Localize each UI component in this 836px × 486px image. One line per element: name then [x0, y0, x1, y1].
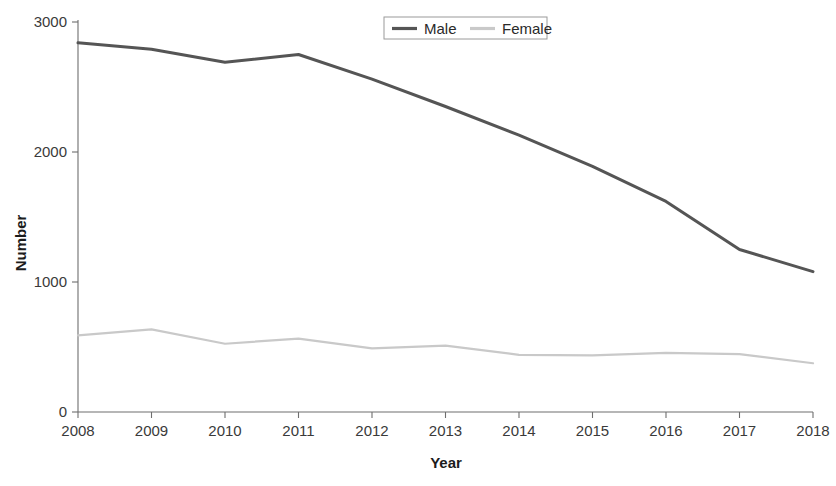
x-tick-label: 2012 [355, 422, 388, 439]
chart-legend: Male Female [384, 17, 552, 39]
x-tick-label: 2011 [282, 422, 314, 439]
x-tick-label: 2008 [61, 422, 94, 439]
y-axis-ticks [72, 22, 78, 412]
x-tick-label: 2017 [723, 422, 756, 439]
series-lines-group [78, 43, 813, 363]
y-tick-label: 2000 [34, 143, 67, 160]
series-line-female [78, 329, 813, 363]
x-axis-group: 2008200920102011201220132014201520162017… [61, 412, 829, 439]
chart-figure: 0100020003000 20082009201020112012201320… [0, 0, 836, 486]
legend-label-male: Male [424, 20, 457, 37]
x-tick-label: 2009 [135, 422, 168, 439]
x-tick-label: 2014 [502, 422, 535, 439]
x-axis-title: Year [430, 454, 462, 471]
x-tick-label: 2010 [208, 422, 241, 439]
y-axis-title: Number [12, 215, 29, 272]
x-tick-label: 2013 [429, 422, 462, 439]
y-tick-label: 0 [59, 403, 67, 420]
y-axis-group: 0100020003000 [34, 13, 78, 420]
legend-label-female: Female [502, 20, 552, 37]
line-chart-canvas: 0100020003000 20082009201020112012201320… [0, 0, 836, 486]
y-tick-label: 3000 [34, 13, 67, 30]
x-tick-label: 2018 [796, 422, 829, 439]
y-axis-tick-labels: 0100020003000 [34, 13, 67, 420]
x-tick-label: 2016 [649, 422, 682, 439]
series-line-male [78, 43, 813, 272]
x-axis-tick-labels: 2008200920102011201220132014201520162017… [61, 422, 829, 439]
y-tick-label: 1000 [34, 273, 67, 290]
x-tick-label: 2015 [576, 422, 609, 439]
x-axis-ticks [78, 412, 813, 418]
